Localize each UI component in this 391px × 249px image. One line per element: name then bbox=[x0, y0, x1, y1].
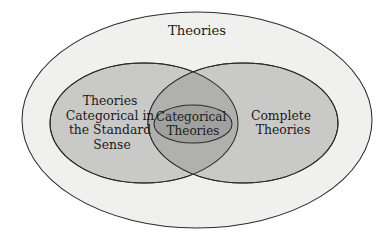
label-right-line: Complete bbox=[251, 107, 311, 122]
label-complete-theories: Complete Theories bbox=[251, 107, 315, 137]
venn-diagram-canvas: Theories Theories Categorical in the Sta… bbox=[0, 0, 391, 249]
label-inner-line: Theories bbox=[167, 124, 220, 138]
label-left-line: the Standard bbox=[69, 122, 151, 137]
label-universe-line: Theories bbox=[168, 23, 226, 38]
label-right-line: Theories bbox=[256, 122, 311, 137]
label-universe-theories: Theories bbox=[168, 23, 226, 38]
label-left-line: Sense bbox=[93, 137, 131, 152]
label-inner-line: Categorical bbox=[156, 109, 227, 123]
label-left-line: Theories bbox=[83, 92, 138, 107]
label-left-line: Categorical in bbox=[66, 107, 155, 122]
venn-diagram: Theories Theories Categorical in the Sta… bbox=[0, 0, 391, 249]
label-categorical-theories: Categorical Theories bbox=[156, 109, 230, 137]
